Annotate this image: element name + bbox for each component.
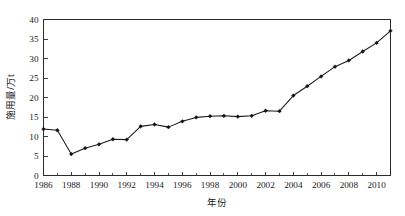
data-series-line bbox=[44, 31, 391, 154]
x-axis-title: 年份 bbox=[207, 197, 227, 208]
y-tick-label: 35 bbox=[29, 34, 39, 44]
x-tick-label: 2000 bbox=[229, 180, 248, 190]
x-tick-label: 1988 bbox=[62, 180, 81, 190]
data-point-marker bbox=[83, 146, 87, 150]
x-tick-label: 1986 bbox=[34, 180, 53, 190]
x-tick-label: 1998 bbox=[201, 180, 220, 190]
y-tick-label: 15 bbox=[29, 112, 39, 122]
line-chart: 0510152025303540 19861988199019921994199… bbox=[0, 0, 405, 216]
x-tick-label: 2010 bbox=[367, 180, 386, 190]
x-tick-label: 1992 bbox=[118, 180, 137, 190]
data-point-marker bbox=[153, 123, 157, 127]
data-point-marker bbox=[97, 142, 101, 146]
y-tick-label: 5 bbox=[34, 151, 39, 161]
x-tick-label: 1996 bbox=[173, 180, 192, 190]
data-point-marker bbox=[208, 114, 212, 118]
x-tick-label: 2006 bbox=[312, 180, 331, 190]
x-tick-label: 1994 bbox=[145, 180, 164, 190]
data-point-marker bbox=[194, 115, 198, 119]
y-tick-label: 30 bbox=[29, 54, 39, 64]
data-point-marker bbox=[180, 119, 184, 123]
x-axis-ticks: 1986198819901992199419961998200020022004… bbox=[34, 172, 386, 190]
x-tick-label: 2004 bbox=[284, 180, 303, 190]
y-axis-title: 施用量/万t bbox=[5, 74, 16, 120]
x-tick-label: 1990 bbox=[90, 180, 109, 190]
data-point-marker bbox=[42, 127, 46, 131]
x-tick-label: 2002 bbox=[256, 180, 275, 190]
data-point-marker bbox=[167, 125, 171, 129]
data-point-marker bbox=[264, 109, 268, 113]
data-point-markers bbox=[42, 29, 393, 156]
x-tick-label: 2008 bbox=[340, 180, 359, 190]
y-tick-label: 25 bbox=[29, 73, 39, 83]
y-tick-label: 10 bbox=[29, 132, 39, 142]
data-point-marker bbox=[111, 137, 115, 141]
data-point-marker bbox=[250, 114, 254, 118]
plot-frame bbox=[44, 20, 391, 176]
y-tick-label: 40 bbox=[29, 15, 39, 25]
y-tick-label: 20 bbox=[29, 93, 39, 103]
data-point-marker bbox=[236, 115, 240, 119]
y-axis-ticks: 0510152025303540 bbox=[29, 15, 47, 181]
data-point-marker bbox=[222, 114, 226, 118]
chart-figure: 0510152025303540 19861988199019921994199… bbox=[0, 0, 405, 216]
